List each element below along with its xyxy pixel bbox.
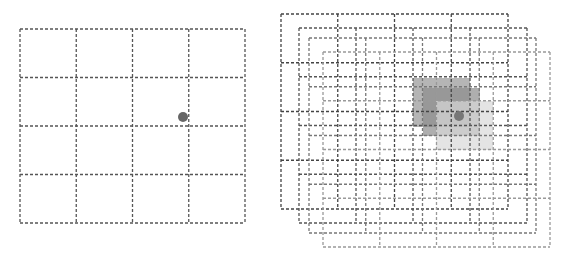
left-grid — [20, 29, 245, 223]
stacked-grid-3 — [309, 38, 536, 233]
right-stacked-grids-panel — [281, 14, 550, 247]
highlighted-cells — [413, 78, 493, 150]
stacked-grid-1 — [281, 14, 508, 209]
point-marker — [178, 112, 188, 122]
diagram-canvas — [0, 0, 570, 258]
left-grid-panel — [20, 29, 245, 223]
right-point — [454, 111, 464, 121]
point-marker — [454, 111, 464, 121]
stacked-grids — [281, 14, 550, 247]
